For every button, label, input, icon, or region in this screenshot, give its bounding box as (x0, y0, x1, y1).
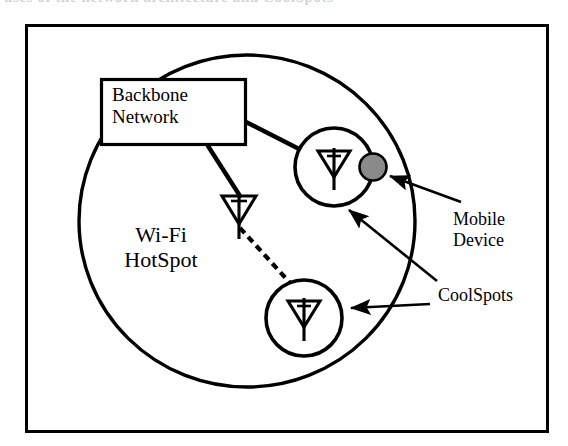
link-backbone-to-middle-antenna (208, 146, 240, 196)
figure-canvas: uses of the network architecture and Coo… (0, 0, 568, 446)
mobile-device-label: Mobile Device (453, 209, 505, 250)
callout-arrow-coolspot-upper (349, 210, 437, 281)
wifi-hotspot-label: Wi-Fi HotSpot (86, 222, 236, 272)
backbone-network-label: Backbone Network (112, 84, 188, 127)
link-middle-antenna-to-lower-coolspot (240, 228, 292, 285)
mobile-device-dot (360, 154, 387, 181)
coolspots-label: CoolSpots (438, 285, 513, 306)
coolspot-lower (266, 280, 342, 356)
callout-arrow-mobile-device (390, 176, 461, 202)
link-backbone-to-upper-coolspot (246, 122, 305, 152)
